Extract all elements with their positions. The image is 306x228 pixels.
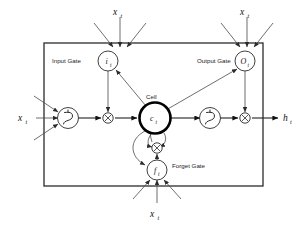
input-bottom-wires [133,180,181,203]
lstm-diagram-canvas: i t O t f t c t Input Gate Output Gate F… [0,0,306,228]
output-gate-symbol: O [241,57,247,66]
cell-label: Cell [146,93,157,100]
input-gate-node[interactable] [98,51,118,71]
multiply-node-forget [152,143,162,153]
input-top-left-subscript: t [121,12,123,19]
input-gate-label: Input Gate [52,57,81,64]
input-bottom-symbol: x [149,209,155,219]
input-top-right-subscript: t [248,12,250,19]
output-squash-node [200,108,221,129]
forget-gate-label: Forget Gate [172,162,206,169]
input-left-symbol: x [17,113,23,123]
input-squash-node [58,108,79,129]
input-left-wires [34,96,58,140]
lstm-diagram-svg: i t O t f t c t Input Gate Output Gate F… [0,0,306,228]
peephole-cell-to-input-gate [116,70,146,106]
output-subscript: t [290,118,292,125]
multiply-node-output [240,113,250,123]
output-symbol: h [283,113,288,123]
output-gate-label: Output Gate [197,57,231,64]
input-top-right-symbol: x [239,7,245,17]
forget-gate-node[interactable] [147,160,167,180]
multiply-node-input [103,113,113,123]
input-gate-symbol: i [106,57,108,66]
input-bottom-subscript: t [158,214,160,221]
input-left-subscript: t [26,118,28,125]
cell-symbol: c [150,114,154,123]
peephole-cell-to-output-gate [166,69,237,110]
input-top-left-symbol: x [112,7,118,17]
gate-control-wires [108,71,245,160]
